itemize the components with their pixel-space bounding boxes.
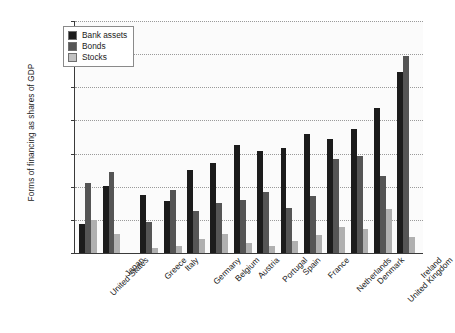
bar-stocks xyxy=(363,229,369,253)
legend-item: Stocks xyxy=(68,52,127,63)
legend-swatch-icon xyxy=(68,53,77,62)
bar-group xyxy=(374,21,392,253)
bar-group xyxy=(210,21,228,253)
bar-bonds xyxy=(403,56,409,253)
bar-group xyxy=(164,21,182,253)
legend-label: Bonds xyxy=(82,41,106,52)
chart-legend: Bank assetsBondsStocks xyxy=(63,26,134,67)
legend-label: Stocks xyxy=(82,52,107,63)
bar-group xyxy=(304,21,322,253)
bar-bonds xyxy=(263,192,269,253)
bar-group xyxy=(327,21,345,253)
bar-stocks xyxy=(269,246,275,253)
x-axis-labels: United StatesJapanGreeceItalyGermanyBelg… xyxy=(75,255,423,333)
bar-group xyxy=(140,21,158,253)
bar-group xyxy=(351,21,369,253)
y-axis-title: Forms of financing as shares of GDP xyxy=(27,18,36,248)
bar-group xyxy=(234,21,252,253)
bar-stocks xyxy=(176,246,182,253)
bar-stocks xyxy=(339,227,345,254)
bar-stocks xyxy=(199,239,205,253)
bar-bonds xyxy=(170,190,176,253)
bar-stocks xyxy=(91,220,97,253)
legend-item: Bank assets xyxy=(68,30,127,41)
bar-stocks xyxy=(409,237,415,253)
legend-swatch-icon xyxy=(68,42,77,51)
bar-stocks xyxy=(316,235,322,253)
bar-stocks xyxy=(292,241,298,253)
bar-stocks xyxy=(114,234,120,253)
x-axis-label: Austria xyxy=(255,255,281,281)
bar-group xyxy=(257,21,275,253)
bar-group xyxy=(187,21,205,253)
bar-group xyxy=(281,21,299,253)
legend-swatch-icon xyxy=(68,31,77,40)
bar-stocks xyxy=(222,234,228,253)
bar-group xyxy=(397,21,415,253)
legend-item: Bonds xyxy=(68,41,127,52)
legend-label: Bank assets xyxy=(82,30,127,41)
bar-stocks xyxy=(246,243,252,253)
bar-stocks xyxy=(386,209,392,253)
x-axis-label: France xyxy=(325,255,351,281)
x-axis-line xyxy=(74,253,423,254)
